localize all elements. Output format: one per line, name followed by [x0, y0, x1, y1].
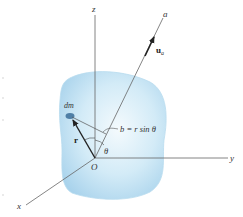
rigid-body-moment-of-inertia-diagram: z y x a O ua r dm b = r sin θ θ	[0, 0, 243, 217]
z-axis-label: z	[91, 4, 96, 14]
unit-vector-label: ua	[156, 45, 164, 56]
theta-label: θ	[104, 146, 108, 156]
mass-element-icon	[66, 113, 75, 119]
unit-vector-ua	[145, 37, 154, 56]
position-vector-label: r	[74, 135, 78, 145]
mass-element-label: dm	[64, 101, 74, 110]
y-axis-label: y	[229, 153, 234, 163]
distance-equation-label: b = r sin θ	[120, 124, 156, 134]
x-axis-label: x	[16, 201, 21, 211]
origin-label: O	[91, 162, 98, 172]
a-axis-label: a	[163, 9, 168, 19]
